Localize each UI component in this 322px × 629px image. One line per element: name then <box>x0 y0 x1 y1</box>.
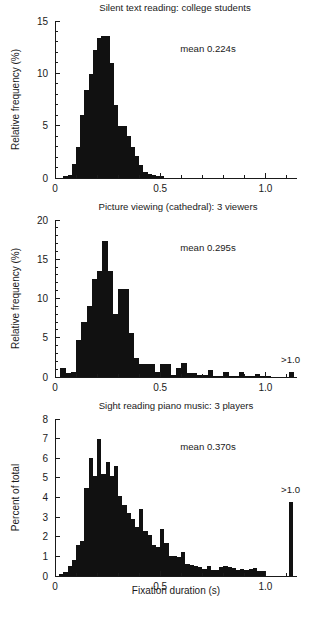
histogram-bar <box>87 306 92 377</box>
y-tick-label: 5 <box>42 472 48 483</box>
x-tick-label: 1.0 <box>258 382 272 393</box>
histogram-bar <box>80 115 84 178</box>
histogram-bar <box>232 568 236 576</box>
y-axis-title: Relative frequency (%) <box>10 49 21 150</box>
histogram-bar <box>139 165 143 178</box>
histogram-plot: 00.51.0012345678Percent of totalSight re… <box>0 398 322 598</box>
y-tick-labels: 05101520 <box>37 215 49 383</box>
histogram-bar <box>198 567 202 576</box>
y-tick-label: 1 <box>42 551 48 562</box>
y-tick-label: 0 <box>42 173 48 184</box>
histogram-bar <box>106 462 110 576</box>
histogram-bar <box>143 531 147 576</box>
overflow-label: >1.0 <box>281 484 300 495</box>
histogram-bar <box>66 373 71 377</box>
histogram-bar <box>131 147 135 178</box>
y-tick-label: 5 <box>42 120 48 131</box>
histogram-bar <box>190 565 194 576</box>
histogram-bar <box>118 289 123 377</box>
panel-picture-viewing: 00.51.005101520Relative frequency (%)Pic… <box>0 199 322 399</box>
histogram-bar <box>160 529 164 576</box>
overflow-bar <box>289 372 294 378</box>
histogram-bar <box>84 488 88 576</box>
histogram-bar <box>89 74 93 178</box>
histogram-bar <box>239 372 244 377</box>
histogram-bar <box>81 322 86 377</box>
histogram-bar <box>192 373 197 377</box>
histogram-bar <box>72 164 76 178</box>
histogram-bar <box>108 271 113 377</box>
x-tick-labels: 00.51.0 <box>52 382 273 393</box>
x-tick-label: 0.5 <box>153 382 167 393</box>
histogram-bar <box>244 570 248 576</box>
histogram-bar <box>185 564 189 576</box>
histogram-bar <box>89 458 93 576</box>
histogram-bar <box>139 364 144 377</box>
y-tick-label: 15 <box>37 16 49 27</box>
x-tick-label: 0 <box>52 183 58 194</box>
histogram-bar <box>118 496 122 576</box>
y-tick-label: 20 <box>37 215 49 226</box>
histogram-bar <box>134 358 139 377</box>
y-tick-labels: 051015 <box>37 16 49 184</box>
x-tick-label: 0 <box>52 581 58 592</box>
histogram-bar <box>253 568 257 576</box>
histogram-bar <box>101 474 105 576</box>
mean-annotation: mean 0.295s <box>180 242 236 253</box>
histogram-bar <box>63 572 67 576</box>
histogram-bar <box>97 439 101 576</box>
x-tick-labels: 00.51.0 <box>52 183 273 194</box>
histogram-bar <box>122 505 126 576</box>
histogram-bar <box>97 38 101 178</box>
histogram-bar <box>101 36 105 178</box>
histogram-bar <box>165 364 170 377</box>
mean-annotation: mean 0.224s <box>180 43 236 54</box>
panel-silent-text-reading: 00.51.0051015Relative frequency (%)Silen… <box>0 0 322 200</box>
y-axis-title: Relative frequency (%) <box>10 248 21 349</box>
x-tick-label: 1.0 <box>258 183 272 194</box>
histogram-bar <box>156 547 160 576</box>
histogram-bar <box>207 566 211 576</box>
histogram-bar <box>76 147 80 178</box>
y-tick-label: 4 <box>42 492 48 503</box>
histogram-bar <box>240 569 244 576</box>
overflow-label: >1.0 <box>281 354 300 365</box>
histogram-bar <box>102 241 107 377</box>
y-tick-label: 5 <box>42 332 48 343</box>
histogram-bar <box>76 340 81 377</box>
mean-annotation: mean 0.370s <box>180 441 236 452</box>
y-tick-labels: 012345678 <box>42 414 48 582</box>
x-axis-title: Fixation duration (s) <box>132 585 220 596</box>
histogram-bar <box>257 571 261 576</box>
histogram-bar <box>92 279 97 377</box>
histogram-plot: 00.51.0051015Relative frequency (%)Silen… <box>0 0 322 200</box>
panel-title: Sight reading piano music: 3 players <box>99 400 254 411</box>
histogram-bar <box>60 368 65 377</box>
histogram-bars <box>60 241 294 377</box>
histogram-bar <box>84 90 88 178</box>
histogram-bars <box>59 439 293 576</box>
histogram-bar <box>106 36 110 178</box>
histogram-bar <box>68 566 72 576</box>
histogram-bar <box>160 364 165 377</box>
histogram-bar <box>72 560 76 576</box>
y-tick-label: 15 <box>37 254 49 265</box>
histogram-bar <box>152 545 156 576</box>
panel-sight-reading: 00.51.0012345678Percent of totalSight re… <box>0 398 322 598</box>
y-tick-label: 6 <box>42 453 48 464</box>
histogram-bar <box>202 569 206 576</box>
histogram-bar <box>76 545 80 576</box>
histogram-bar <box>155 372 160 377</box>
figure-root: 00.51.0051015Relative frequency (%)Silen… <box>0 0 322 629</box>
histogram-bar <box>123 289 128 377</box>
x-tick-label: 1.0 <box>258 581 272 592</box>
histogram-bar <box>110 476 114 576</box>
histogram-bar <box>173 556 177 576</box>
panel-title: Picture viewing (cathedral): 3 viewers <box>99 201 258 212</box>
histogram-bar <box>223 372 228 377</box>
histogram-bar <box>181 552 185 576</box>
histogram-plot: 00.51.005101520Relative frequency (%)Pic… <box>0 199 322 399</box>
y-tick-label: 8 <box>42 414 48 425</box>
histogram-bar <box>71 372 76 377</box>
histogram-bars <box>63 36 164 178</box>
